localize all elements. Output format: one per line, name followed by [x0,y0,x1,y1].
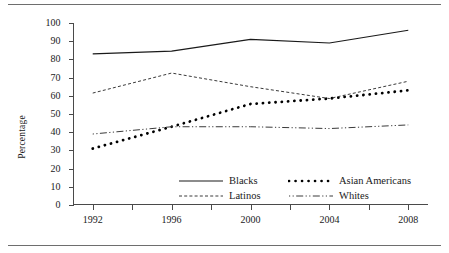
x-axis-tick [290,205,291,210]
legend-label-latinos: Latinos [229,190,261,201]
line-chart-figure: Percentage 0102030405060708090100 199219… [0,10,449,238]
legend-swatch-solid-icon [178,176,224,186]
chart-legend: Blacks Asian Americans Latinos Whites [178,173,440,203]
x-axis-tick-label: 1992 [83,214,103,225]
legend-row-1: Blacks Asian Americans [178,173,440,188]
legend-swatch-dotted-icon [288,176,334,186]
y-axis-tick-label: 40 [31,126,61,137]
x-axis-tick-label: 2000 [241,214,261,225]
legend-item-latinos: Latinos [178,190,288,201]
x-axis-tick-label: 2004 [319,214,339,225]
x-axis-tick-label: 2008 [398,214,418,225]
y-axis-tick-label: 70 [31,72,61,83]
series-line-whites [93,125,409,134]
x-axis-tick [369,205,370,210]
legend-swatch-dashed-icon [178,191,224,201]
x-axis-tick-label: 1996 [162,214,182,225]
y-axis-tick-label: 30 [31,144,61,155]
y-axis-title-text: Percentage [17,115,27,159]
legend-item-blacks: Blacks [178,175,288,186]
y-axis-tick-label: 100 [31,17,61,28]
page-rule-bottom [8,245,441,246]
y-axis-tick-label: 0 [31,199,61,210]
x-axis-tick [132,205,133,210]
y-axis-title: Percentage [14,82,30,192]
y-axis-tick-label: 20 [31,163,61,174]
page-rule-top [8,4,441,5]
legend-label-whites: Whites [339,190,369,201]
x-axis-tick [93,205,94,210]
x-axis-tick [329,205,330,210]
y-axis-tick: 0 [69,205,74,206]
x-axis-tick [408,205,409,210]
legend-label-asian-americans: Asian Americans [339,175,411,186]
x-axis-tick [211,205,212,210]
legend-item-whites: Whites [288,190,369,201]
y-axis-tick-label: 50 [31,108,61,119]
y-axis-tick-label: 10 [31,181,61,192]
y-axis-tick-label: 90 [31,35,61,46]
x-axis-tick [172,205,173,210]
series-line-blacks [93,30,409,54]
x-axis-tick [251,205,252,210]
series-line-asian-americans [93,90,409,148]
legend-row-2: Latinos Whites [178,188,440,203]
y-axis-tick-label: 60 [31,90,61,101]
series-line-latinos [93,73,409,98]
legend-label-blacks: Blacks [229,175,258,186]
legend-swatch-dashdot-icon [288,191,334,201]
y-axis-tick-label: 80 [31,53,61,64]
legend-item-asian-americans: Asian Americans [288,175,411,186]
